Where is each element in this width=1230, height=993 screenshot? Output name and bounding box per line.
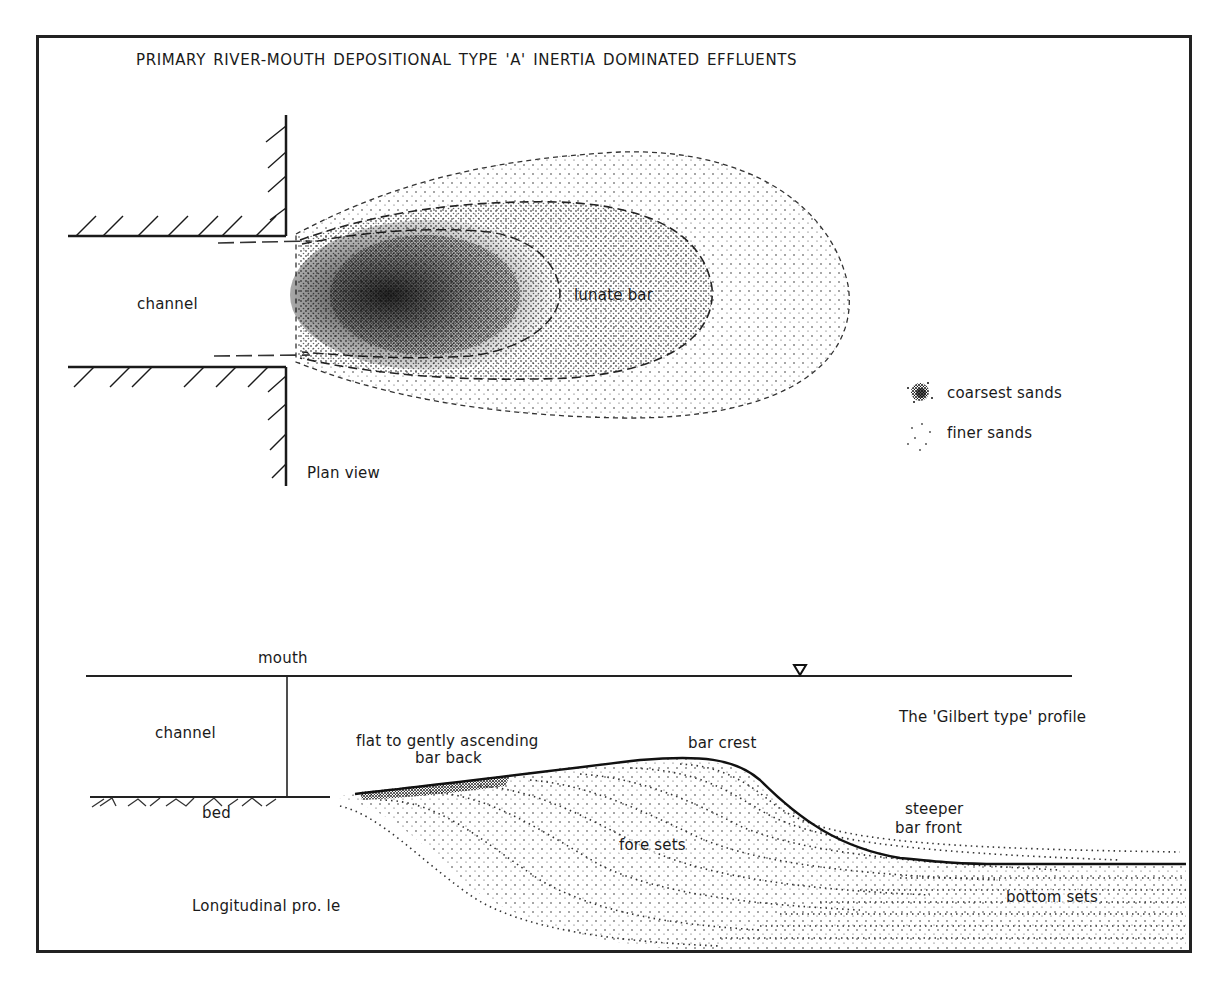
bed-hatching <box>92 798 276 807</box>
profile-channel-label: channel <box>155 726 216 741</box>
bar-back-label-line1: flat to gently ascending <box>356 734 539 749</box>
bar-crest-label: bar crest <box>688 736 756 751</box>
coarse-sands-swatch <box>907 382 933 403</box>
bed-label: bed <box>202 806 231 821</box>
lower-bank <box>68 367 286 486</box>
legend-coarsest-sands-label: coarsest sands <box>947 386 1062 401</box>
bottom-sets-label: bottom sets <box>1006 890 1098 905</box>
upper-bank <box>68 115 286 236</box>
figure-title: PRIMARY RIVER-MOUTH DEPOSITIONAL TYPE 'A… <box>136 53 797 68</box>
gilbert-profile-label: The 'Gilbert type' profile <box>899 710 1086 725</box>
legend-finer-sands-label: finer sands <box>947 426 1032 441</box>
bar-front-label-line1: steeper <box>905 802 963 817</box>
lunate-bar-label: lunate bar <box>574 288 653 303</box>
finer-sands-swatch <box>907 423 931 451</box>
fore-sets-label: fore sets <box>619 838 686 853</box>
plan-view-caption: Plan view <box>307 466 380 481</box>
mouth-label: mouth <box>258 651 308 666</box>
plan-channel-label: channel <box>137 297 198 312</box>
bar-front-label-line2: bar front <box>895 821 962 836</box>
diagram-artwork <box>0 0 1230 993</box>
water-level-icon <box>794 665 806 675</box>
legend-symbols <box>907 382 933 451</box>
bar-back-label-line2: bar back <box>415 751 482 766</box>
longitudinal-profile-caption: Longitudinal pro. le <box>192 899 340 914</box>
